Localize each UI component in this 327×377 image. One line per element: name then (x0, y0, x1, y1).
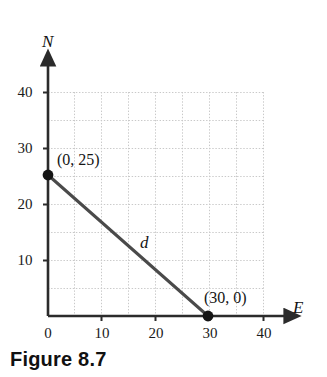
x-tick-label-10: 10 (89, 326, 115, 341)
x-axis-label: E (293, 299, 303, 316)
figure-container: N E 40 30 20 10 0 10 20 30 40 (0, 25) (3… (0, 0, 327, 377)
coordinate-plot (0, 0, 327, 377)
point-label-30-0: (30, 0) (204, 290, 247, 306)
segment-label-d: d (140, 234, 149, 251)
x-tick-label-0: 0 (35, 326, 61, 341)
x-tick-label-30: 30 (197, 326, 223, 341)
y-tick-label-10: 10 (12, 253, 38, 268)
point-label-0-25: (0, 25) (57, 152, 100, 168)
x-tick-label-20: 20 (143, 326, 169, 341)
point-marker-0-25 (43, 170, 54, 181)
y-tick-label-40: 40 (12, 85, 38, 100)
grid-horizontal-lines (48, 93, 264, 289)
y-axis-label: N (42, 33, 53, 50)
point-marker-30-0 (203, 311, 214, 322)
x-tick-label-40: 40 (251, 326, 277, 341)
y-tick-label-30: 30 (12, 141, 38, 156)
figure-caption: Figure 8.7 (10, 348, 106, 371)
y-tick-label-20: 20 (12, 197, 38, 212)
